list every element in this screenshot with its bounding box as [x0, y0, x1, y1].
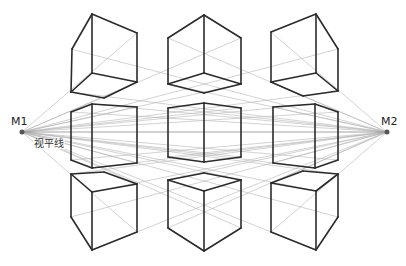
cube-edge: [204, 103, 241, 108]
cube-edge: [271, 183, 316, 191]
cube-edge: [271, 171, 303, 183]
cube-edge: [92, 73, 137, 82]
cube-edge: [71, 92, 104, 98]
cube-edge: [168, 173, 204, 180]
cube-edge: [271, 232, 316, 250]
cube-edge: [315, 104, 338, 112]
cube-edge: [71, 73, 92, 92]
cube-top-right: [271, 14, 338, 96]
cube-edge: [204, 228, 241, 251]
cube-edge: [92, 184, 137, 192]
cube-edge: [71, 49, 72, 92]
cube-edge: [273, 104, 315, 107]
cube-edge: [71, 217, 92, 250]
cube-edge: [168, 228, 204, 251]
cube-edge: [315, 160, 338, 168]
cube-edge: [168, 103, 204, 108]
cube-edge: [104, 172, 137, 184]
vanishing-point-m2: [385, 130, 390, 135]
cube-top-center: [168, 15, 241, 93]
cube-edge: [168, 157, 204, 162]
cube-bottom-left: [71, 172, 137, 250]
cube-edge: [168, 15, 204, 38]
cube-grid: [71, 14, 338, 251]
vanishing-point-m2-label: M2: [381, 116, 398, 127]
cube-edge: [204, 15, 241, 38]
cube-edge: [273, 163, 315, 168]
cube-edge: [204, 73, 241, 84]
cube-edge: [204, 173, 241, 180]
cube-edge: [271, 14, 316, 32]
cube-edge: [271, 73, 316, 82]
perspective-drawing: [0, 0, 406, 266]
cube-edge: [104, 82, 137, 98]
cube-edge: [204, 157, 241, 162]
cube-edge: [303, 91, 338, 96]
vanishing-point-m1: [20, 130, 25, 135]
cube-edge: [72, 14, 92, 49]
perspective-diagram: M1 M2 视平线: [0, 0, 406, 266]
cube-edge: [316, 14, 338, 49]
cube-edge: [316, 217, 338, 250]
cube-edge: [71, 174, 92, 192]
cube-edge: [271, 82, 303, 96]
guide-line-m2: [271, 132, 387, 232]
cube-edge: [316, 73, 338, 91]
cube-middle-right: [273, 104, 338, 168]
cube-edge: [92, 232, 137, 250]
cube-edge: [71, 172, 104, 174]
cube-edge: [71, 104, 92, 112]
horizon-line-label: 视平线: [33, 139, 65, 149]
cube-edge: [316, 174, 338, 191]
vanishing-point-m1-label: M1: [11, 116, 28, 127]
cube-edge: [92, 14, 137, 33]
cube-bottom-center: [168, 173, 241, 251]
cube-edge: [92, 104, 137, 107]
guide-line-m2: [71, 112, 387, 132]
cube-top-left: [71, 14, 137, 98]
